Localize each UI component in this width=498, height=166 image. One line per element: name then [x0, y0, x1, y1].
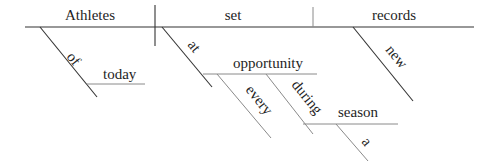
modifier-word-a: a	[359, 134, 376, 150]
object-word-season: season	[338, 104, 378, 120]
preposition-line-at	[162, 27, 212, 87]
preposition-word-at: at	[185, 37, 205, 56]
preposition-word-during: during	[289, 77, 326, 118]
preposition-word-of: of	[64, 49, 84, 69]
verb-word: set	[225, 7, 242, 23]
object-word: records	[372, 7, 416, 23]
object-word-today: today	[103, 66, 137, 82]
object-word-opportunity: opportunity	[233, 55, 303, 71]
sentence-diagram: Athletes set records of today at opportu…	[0, 0, 498, 166]
modifier-word-every: every	[243, 82, 277, 118]
subject-word: Athletes	[65, 7, 115, 23]
modifier-word-new: new	[383, 42, 411, 72]
